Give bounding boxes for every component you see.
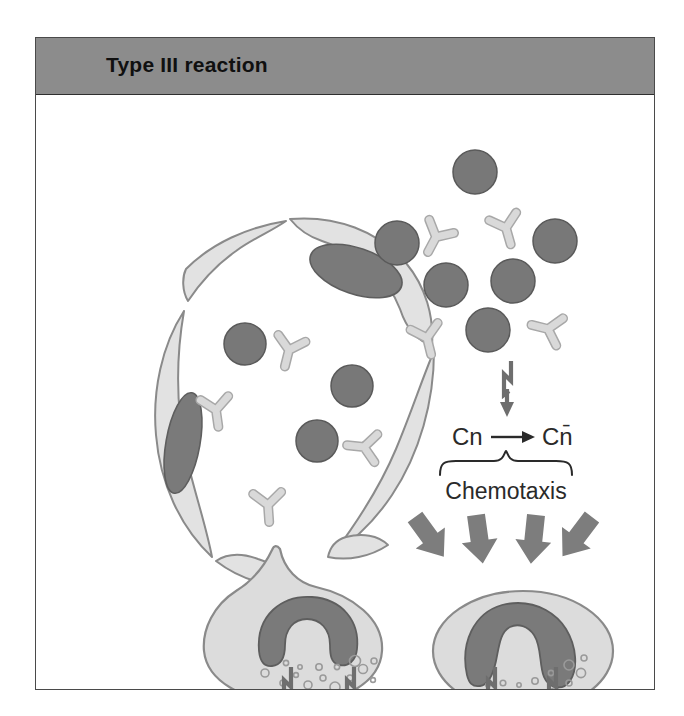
complement-activation-bolt-icon [500,361,514,417]
complement-inactive-label: Cn [452,423,483,450]
antigen-circle [466,308,510,352]
blood-vessel-cross-section [149,218,434,586]
antibody-glyph [528,311,563,345]
complement-active-label: Cn̄ [542,423,573,450]
type-iii-reaction-illustration: Cn Cn̄ Chemotaxis [36,95,654,689]
endothelial-cell-bottomright [328,535,388,558]
page-title: Type III reaction [106,53,268,77]
chemotaxis-arrow-2 [458,512,500,566]
antibody-glyph [489,213,524,249]
chemotaxis-group: Chemotaxis [440,451,572,504]
antigen-circle [491,259,535,303]
antigen-circle [375,221,419,265]
antibody-glyph [416,220,454,259]
chemotaxis-label: Chemotaxis [445,478,566,504]
complement-reaction-label: Cn Cn̄ [452,423,573,450]
figure-header-band: Type III reaction [36,38,654,95]
figure-frame: Type III reaction [35,37,655,690]
page-root: Type III reaction [0,0,684,716]
antigen-circle [331,365,373,407]
antigen-circle [224,323,266,365]
chemotaxis-arrow-3 [513,513,554,565]
reaction-arrow-head [522,431,535,443]
antigen-circle [424,263,468,307]
chemotaxis-brace [440,451,572,475]
chemotaxis-arrow-4 [548,506,606,567]
antigen-circle [453,150,497,194]
antigen-circle [296,420,338,462]
chemotaxis-arrows [400,506,606,567]
neutrophil-right [433,591,613,689]
diagram-canvas: Cn Cn̄ Chemotaxis [36,95,654,689]
chemotaxis-arrow-1 [400,506,458,567]
antigen-circle [533,219,577,263]
